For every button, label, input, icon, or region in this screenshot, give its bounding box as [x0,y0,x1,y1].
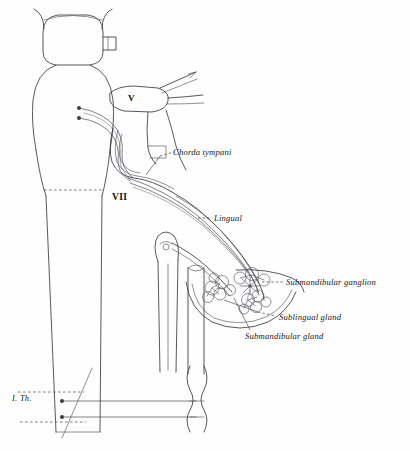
trigeminal-branch-ophthalmic [160,72,196,88]
trigeminal-branch-ophthalmic-edge [162,79,197,93]
mandibular-division-posterior [166,110,186,170]
tongue-duct-opening [163,244,169,250]
medulla-right-border [102,150,110,196]
cerebral-peduncle-right [102,9,112,29]
brainstem-group [18,9,116,432]
oral-floor-group [155,232,304,374]
chorda-tympani-fiber-1 [128,178,258,292]
cerebral-peduncle-left [34,9,44,29]
thoracic-outflow-group [60,366,207,438]
trigeminal-branch-maxillary [168,95,203,98]
sublingual-gland-shape [203,273,236,303]
leader-chorda-tympani-stem [146,156,160,175]
label-chorda-tympani: Chorda tympani [173,147,232,157]
anatomical-figure: Chorda tympani Lingual Submandibular gan… [0,0,410,451]
tongue-outline-left [155,232,179,262]
chorda-tympani-fiber-2 [130,183,259,295]
tongue-body-right [176,260,178,372]
sympathetic-chain-left [187,366,193,432]
submandibular-duct-edge [172,249,230,296]
lateral-stub [103,37,116,50]
midbrain-outline [43,15,103,65]
chorda-tympani-fiber-3 [133,187,250,276]
pons-outline-right [90,65,114,150]
tongue-body-left [158,262,160,372]
oblique-reference-line [62,368,92,438]
cord-right-border [100,196,102,432]
sympathetic-chain-right [201,366,207,432]
ganglion-to-gland-fiber [247,290,250,300]
medulla-left-border [36,150,46,196]
submandibular-gland-shape [239,290,271,314]
facial-fiber-upper [79,108,133,178]
submandibular-ganglion-shape [240,277,260,295]
submandibular-duct [172,243,232,292]
leader-lines-group [146,152,284,330]
label-facial-numeral: VII [112,192,127,202]
glands-group [203,268,272,315]
anatomy-diagram-svg: Chorda tympani Lingual Submandibular gan… [0,0,410,451]
cord-left-border [46,196,56,432]
label-first-thoracic: I. Th. [11,394,32,403]
pons-outline [32,65,56,150]
mandibular-division-anterior [147,112,156,164]
label-trigeminal-numeral: V [128,93,135,103]
leader-chorda-tympani [160,152,174,156]
label-lingual: Lingual [213,213,243,223]
trigeminal-branch-maxillary-edge [167,103,204,104]
label-sublingual-gland: Sublingual gland [279,312,342,322]
leader-sublingual-gland-stem [224,300,258,312]
label-submandibular-gland: Submandibular gland [245,331,324,341]
tongue-tip-detail [160,242,172,245]
facial-nerve-fibers-group [77,106,133,181]
label-submandibular-ganglion: Submandibular ganglion [286,277,376,287]
trigeminal-ganglion-outline [110,86,168,112]
chorda-lingual-bundle [128,178,264,300]
